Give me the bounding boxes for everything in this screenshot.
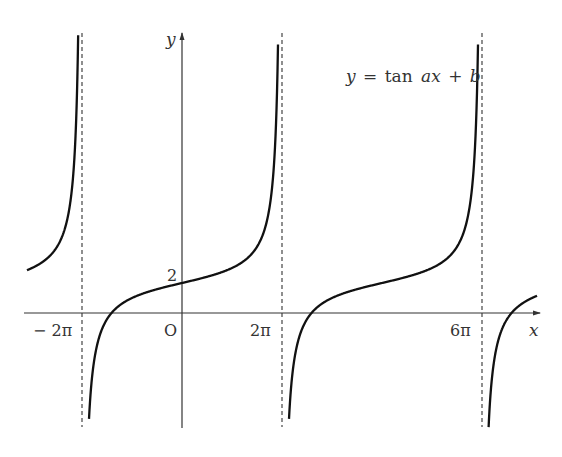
function-label: y = tan ax + b bbox=[345, 66, 481, 86]
tangent-graph: y x O 2 − 2π 2π 6π y = tan ax + b bbox=[0, 0, 562, 457]
tangent-branch bbox=[289, 45, 478, 419]
tangent-branch bbox=[89, 45, 278, 419]
x-tick-2pi: 2π bbox=[250, 321, 271, 340]
x-tick-6pi: 6π bbox=[450, 321, 471, 340]
tangent-branch bbox=[489, 296, 537, 427]
asymptote-lines bbox=[82, 33, 482, 427]
x-axis-label: x bbox=[529, 320, 539, 340]
origin-label: O bbox=[164, 321, 177, 340]
y-axis-label: y bbox=[165, 29, 176, 49]
tangent-branch bbox=[27, 35, 78, 270]
x-tick-neg-2pi: − 2π bbox=[33, 321, 72, 340]
y-tick-2: 2 bbox=[167, 266, 177, 285]
